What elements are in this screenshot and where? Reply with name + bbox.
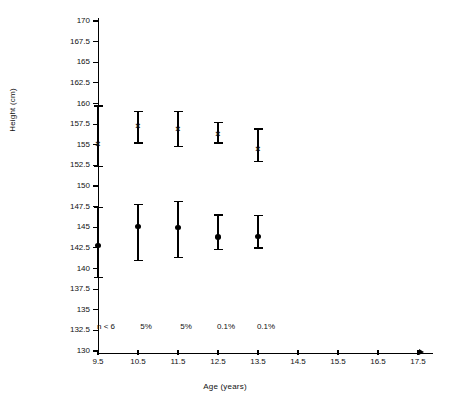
- data-point-cross-icon: ×: [131, 122, 145, 131]
- x-tick: [337, 350, 338, 355]
- y-tick: [93, 82, 98, 83]
- y-axis-line: [98, 18, 99, 354]
- y-tick-label: 130: [46, 347, 90, 355]
- data-point-cross-icon: ×: [171, 125, 185, 134]
- x-tick: [137, 350, 138, 355]
- x-tick: [177, 350, 178, 355]
- error-bar: [257, 216, 258, 248]
- y-tick: [93, 41, 98, 42]
- y-tick-label: 142.5: [46, 244, 90, 252]
- error-bar-cap: [134, 260, 143, 261]
- error-bar: [97, 106, 98, 166]
- error-bar-cap: [94, 277, 103, 278]
- error-bar-cap: [94, 207, 103, 208]
- data-point-dot-icon: [135, 224, 141, 230]
- y-tick-label: 140: [46, 265, 90, 273]
- y-tick-label: 145: [46, 223, 90, 231]
- x-tick: [377, 350, 378, 355]
- error-bar-cap: [254, 247, 263, 248]
- annotation-label: 0.1%: [236, 322, 296, 331]
- error-bar-cap: [94, 166, 103, 167]
- data-point-cross-icon: ×: [251, 145, 265, 154]
- error-bar-cap: [134, 204, 143, 205]
- error-bar-cap: [174, 111, 183, 112]
- y-tick-label: 135: [46, 306, 90, 314]
- data-point-dot-icon: [255, 234, 261, 240]
- chart-figure: Height (cm) Age (years) 170167.5165162.5…: [0, 0, 450, 408]
- error-bar-cap: [174, 146, 183, 147]
- y-tick-label: 160: [46, 100, 90, 108]
- x-tick: [217, 350, 218, 355]
- y-tick-label: 162.5: [46, 79, 90, 87]
- error-bar-cap: [214, 122, 223, 123]
- y-tick-label: 165: [46, 58, 90, 66]
- y-tick-label: 167.5: [46, 38, 90, 46]
- y-tick: [93, 62, 98, 63]
- error-bar-cap: [214, 249, 223, 250]
- y-tick-label: 137.5: [46, 285, 90, 293]
- y-tick-label: 152.5: [46, 161, 90, 169]
- y-tick: [93, 289, 98, 290]
- error-bar: [137, 204, 138, 260]
- y-tick-label: 170: [46, 17, 90, 25]
- x-axis-arrow-icon: [419, 349, 424, 355]
- y-tick-label: 150: [46, 182, 90, 190]
- error-bar-cap: [254, 128, 263, 129]
- error-bar-cap: [254, 161, 263, 162]
- error-bar-cap: [174, 257, 183, 258]
- data-point-cross-icon: ×: [91, 140, 105, 149]
- error-bar-cap: [134, 111, 143, 112]
- y-tick-label: 147.5: [46, 203, 90, 211]
- error-bar-cap: [214, 142, 223, 143]
- x-axis-title: Age (years): [0, 382, 450, 391]
- x-tick: [97, 350, 98, 355]
- data-point-dot-icon: [95, 243, 101, 249]
- y-tick: [93, 309, 98, 310]
- y-tick-label: 155: [46, 141, 90, 149]
- y-tick: [93, 103, 98, 104]
- x-axis-line: [97, 353, 433, 354]
- error-bar-cap: [134, 142, 143, 143]
- error-bar-cap: [94, 105, 103, 106]
- y-axis-title: Height (cm): [8, 65, 17, 155]
- y-tick: [93, 20, 98, 21]
- x-tick-label: 17.5: [395, 357, 441, 366]
- data-point-dot-icon: [175, 225, 181, 231]
- data-point-cross-icon: ×: [211, 130, 225, 139]
- x-tick: [257, 350, 258, 355]
- error-bar: [217, 215, 218, 250]
- error-bar-cap: [214, 214, 223, 215]
- data-point-dot-icon: [215, 234, 221, 240]
- y-tick-label: 157.5: [46, 120, 90, 128]
- x-tick: [297, 350, 298, 355]
- y-tick: [93, 185, 98, 186]
- error-bar-cap: [254, 215, 263, 216]
- error-bar-cap: [174, 201, 183, 202]
